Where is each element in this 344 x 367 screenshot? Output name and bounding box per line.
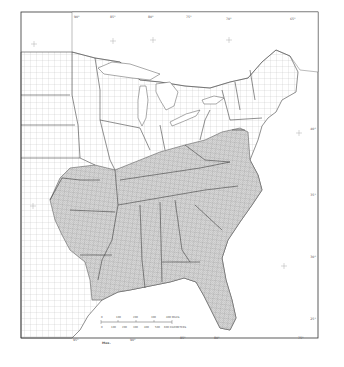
scale-miles-4: 400 MILES xyxy=(166,316,180,319)
mexico-label: Mex. xyxy=(102,341,111,345)
lon-label-bottom-2: 85° xyxy=(180,336,186,340)
scale-km-2: 200 xyxy=(122,326,127,329)
lon-label-bottom-0: 95° xyxy=(73,338,79,342)
lon-label-top-5: 65° xyxy=(290,17,296,21)
scale-km-6: 600 KILOMETERS xyxy=(164,326,187,329)
scale-miles-3: 300 xyxy=(151,316,156,319)
lon-label-top-1: 85° xyxy=(110,15,116,19)
scale-miles-2: 200 xyxy=(133,316,138,319)
lon-label-bottom-4: 75° xyxy=(298,336,304,340)
scale-miles-1: 100 xyxy=(116,316,121,319)
lon-label-bottom-3: 80° xyxy=(214,336,220,340)
map: 90° 85° 80° 75° 70° 65° 40° 35° 30° 25° … xyxy=(0,0,344,367)
lon-label-top-2: 80° xyxy=(148,15,154,19)
lat-label-3: 25° xyxy=(310,317,316,321)
scale-km-1: 100 xyxy=(111,326,116,329)
scale-km-4: 400 xyxy=(144,326,149,329)
scale-km-3: 300 xyxy=(133,326,138,329)
lat-label-2: 30° xyxy=(310,255,316,259)
lat-label-0: 40° xyxy=(310,127,316,131)
lon-label-top-4: 70° xyxy=(226,17,232,21)
lon-label-bottom-1: 90° xyxy=(130,338,136,342)
lon-label-top-0: 90° xyxy=(74,15,80,19)
lat-label-1: 35° xyxy=(310,193,316,197)
scale-km-5: 500 xyxy=(155,326,160,329)
lon-label-top-3: 75° xyxy=(186,15,192,19)
